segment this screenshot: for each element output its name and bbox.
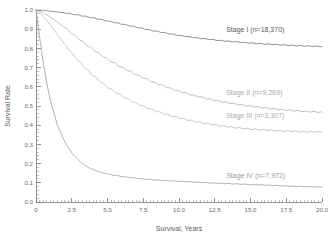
- y-axis-tick-labels: 0.00.10.20.30.40.50.60.70.80.91.0: [24, 6, 33, 205]
- x-axis-tick-labels: 02.55.07.510.012.515.017.520.0: [34, 206, 328, 213]
- series-label-stage-iv: Stage IV (n=7,972): [226, 172, 285, 180]
- series-curves: [36, 10, 322, 187]
- y-tick-label: 0.8: [24, 45, 33, 52]
- y-tick-label: 0.3: [24, 141, 33, 148]
- y-tick-label: 0.4: [24, 121, 33, 128]
- x-tick-label: 0: [34, 206, 38, 213]
- y-tick-label: 0.7: [24, 64, 33, 71]
- survival-curve-chart: 02.55.07.510.012.515.017.520.0 0.00.10.2…: [0, 0, 331, 236]
- x-axis-title: Survival, Years: [156, 225, 203, 232]
- y-tick-label: 0.2: [24, 160, 33, 167]
- y-tick-label: 0.1: [24, 179, 33, 186]
- y-axis-title: Survival Rate: [4, 85, 11, 127]
- series-inline-labels: Stage I (n=18,370)Stage II (n=9,269)Stag…: [226, 26, 285, 180]
- x-tick-label: 20.0: [316, 206, 329, 213]
- series-label-stage-iii: Stage III (n=3,307): [226, 112, 284, 120]
- series-label-stage-ii: Stage II (n=9,269): [226, 89, 282, 97]
- x-tick-label: 5.0: [103, 206, 112, 213]
- x-tick-label: 7.5: [139, 206, 148, 213]
- curve-stage-iv: [36, 10, 322, 187]
- x-tick-label: 10.0: [173, 206, 186, 213]
- chart-canvas: 02.55.07.510.012.515.017.520.0 0.00.10.2…: [0, 0, 331, 236]
- y-tick-label: 0.5: [24, 102, 33, 109]
- x-tick-label: 15.0: [244, 206, 257, 213]
- y-tick-label: 0.6: [24, 83, 33, 90]
- x-tick-label: 12.5: [209, 206, 222, 213]
- x-tick-label: 2.5: [67, 206, 76, 213]
- y-tick-label: 1.0: [24, 6, 33, 13]
- y-tick-label: 0.9: [24, 25, 33, 32]
- series-label-stage-i: Stage I (n=18,370): [226, 26, 284, 34]
- x-tick-label: 17.5: [280, 206, 293, 213]
- y-tick-label: 0.0: [24, 198, 33, 205]
